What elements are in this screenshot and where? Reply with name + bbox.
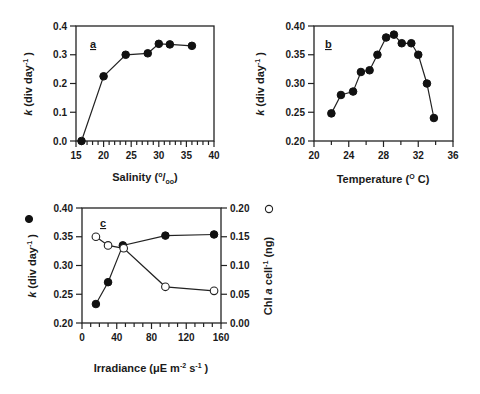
data-point xyxy=(210,287,218,295)
y-tick-label: 0.25 xyxy=(54,289,74,300)
y-tick-label: 0.35 xyxy=(286,49,306,60)
data-point xyxy=(78,137,86,145)
y-tick-label: 0.30 xyxy=(54,260,74,271)
y-tick-label: 0.1 xyxy=(53,107,67,118)
data-point xyxy=(349,88,357,96)
x-tick-label: 32 xyxy=(413,150,425,161)
data-point xyxy=(423,80,431,88)
panel-a-salinity: 1520253035400.00.10.20.30.4 a Salinity (… xyxy=(22,21,220,186)
right-y-tick-label: 0.05 xyxy=(230,289,250,300)
panel-b-x-axis-label: Temperature (O C) xyxy=(337,173,430,185)
panel-b-plot-area: 20242832360.200.250.300.350.40 xyxy=(286,21,459,162)
filled-circle-legend-icon xyxy=(25,215,32,222)
y-tick-label: 0.20 xyxy=(54,318,74,329)
panel-a-y-axis-label: k (div day-1 ) xyxy=(22,52,34,116)
right-y-tick-label: 0.15 xyxy=(230,231,250,242)
x-tick-label: 35 xyxy=(181,150,193,161)
x-tick-label: 80 xyxy=(146,332,158,343)
series-line xyxy=(96,235,214,305)
panel-c-left-y-axis-label: k (div day-1 ) xyxy=(26,234,38,298)
x-tick-label: 20 xyxy=(98,150,110,161)
y-tick-label: 0.35 xyxy=(54,231,74,242)
panel-c-irradiance: 040801201600.200.250.300.350.400.000.050… xyxy=(25,203,274,375)
data-point xyxy=(390,31,398,39)
data-point xyxy=(188,42,196,50)
data-point xyxy=(162,232,170,240)
x-tick-label: 28 xyxy=(378,150,390,161)
y-tick-label: 0.0 xyxy=(53,136,67,147)
y-tick-label: 0.3 xyxy=(53,49,67,60)
data-point xyxy=(104,242,112,250)
x-tick-label: 120 xyxy=(178,332,195,343)
panel-c-label: c xyxy=(100,217,106,229)
panel-b-label: b xyxy=(325,38,332,50)
panel-c-plot-area: 040801201600.200.250.300.350.400.000.050… xyxy=(54,203,250,344)
panel-a-label: a xyxy=(90,38,97,50)
panel-b-y-axis-label: k (div day-1 ) xyxy=(254,52,266,116)
data-point xyxy=(166,41,174,49)
y-tick-label: 0.2 xyxy=(53,78,67,89)
series-line xyxy=(82,44,192,141)
data-point xyxy=(122,51,130,59)
panel-c-x-axis-label: Irradiance (μE m-2 s-1 ) xyxy=(94,362,209,374)
y-tick-label: 0.4 xyxy=(53,21,67,32)
data-point xyxy=(398,39,406,47)
data-point xyxy=(100,73,108,81)
x-tick-label: 25 xyxy=(126,150,138,161)
x-tick-label: 36 xyxy=(447,150,459,161)
data-point xyxy=(162,283,170,291)
y-tick-label: 0.40 xyxy=(54,203,74,214)
data-point xyxy=(414,51,422,59)
x-tick-label: 40 xyxy=(111,332,123,343)
panel-a-plot-area: 1520253035400.00.10.20.30.4 xyxy=(53,21,220,162)
data-point xyxy=(328,110,336,118)
x-tick-label: 15 xyxy=(70,150,82,161)
data-point xyxy=(382,34,390,42)
y-tick-label: 0.25 xyxy=(286,107,306,118)
x-tick-label: 30 xyxy=(153,150,165,161)
data-point xyxy=(210,231,218,239)
series-line xyxy=(331,35,434,118)
data-point xyxy=(374,51,382,59)
panel-c-right-y-axis-label: Chl a cell-1 (ng) xyxy=(262,236,274,315)
open-circle-legend-icon xyxy=(265,205,272,212)
right-y-tick-label: 0.00 xyxy=(230,318,250,329)
data-point xyxy=(155,40,163,48)
y-tick-label: 0.20 xyxy=(286,136,306,147)
data-point xyxy=(120,244,128,252)
data-point xyxy=(430,114,438,122)
x-tick-label: 40 xyxy=(208,150,220,161)
data-point xyxy=(337,91,345,99)
figure: 1520253035400.00.10.20.30.4 a Salinity (… xyxy=(0,0,480,394)
x-tick-label: 0 xyxy=(79,332,85,343)
data-point xyxy=(92,300,100,308)
data-point xyxy=(92,233,100,241)
x-tick-label: 20 xyxy=(308,150,320,161)
x-tick-label: 24 xyxy=(343,150,355,161)
right-y-tick-label: 0.10 xyxy=(230,260,250,271)
data-point xyxy=(104,278,112,286)
x-tick-label: 160 xyxy=(213,332,230,343)
panel-a-x-axis-label: Salinity (o/oo) xyxy=(112,171,178,185)
panel-b-temperature: 20242832360.200.250.300.350.40 b Tempera… xyxy=(254,21,459,186)
right-y-tick-label: 0.20 xyxy=(230,203,250,214)
y-tick-label: 0.30 xyxy=(286,78,306,89)
data-point xyxy=(366,66,374,74)
data-point xyxy=(408,39,416,47)
data-point xyxy=(357,68,365,76)
series-line xyxy=(96,237,214,291)
y-tick-label: 0.40 xyxy=(286,21,306,32)
data-point xyxy=(144,50,152,58)
